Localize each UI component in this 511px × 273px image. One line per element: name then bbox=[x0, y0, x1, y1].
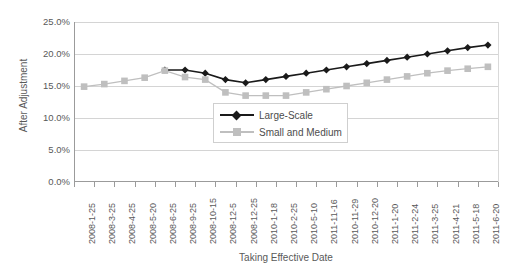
x-tick bbox=[377, 182, 378, 187]
x-tick bbox=[437, 182, 438, 187]
data-point-marker bbox=[242, 92, 249, 99]
x-axis-tick-labels: 2008-1-252008-3-252008-4-252008-5-202008… bbox=[74, 188, 498, 248]
data-point-marker bbox=[323, 66, 330, 73]
x-tick-label: 2010-12-20 bbox=[371, 198, 380, 244]
x-tick-label: 2010-2-25 bbox=[290, 203, 299, 244]
x-tick bbox=[397, 182, 398, 187]
x-tick-label: 2011-2-24 bbox=[411, 204, 420, 244]
legend-label: Large-Scale bbox=[259, 110, 313, 121]
data-point-marker bbox=[464, 44, 471, 51]
y-tick-label: 20.0% bbox=[43, 49, 70, 59]
x-tick bbox=[296, 182, 297, 187]
data-point-marker bbox=[222, 89, 229, 96]
x-tick-label: 2011-1-20 bbox=[391, 204, 400, 244]
x-tick bbox=[458, 182, 459, 187]
data-point-marker bbox=[424, 70, 431, 77]
data-point-marker bbox=[424, 50, 431, 57]
legend-item-small-and-medium: Small and Medium bbox=[220, 124, 342, 140]
y-tick-label: 0.0% bbox=[48, 177, 70, 187]
data-point-marker bbox=[181, 66, 188, 73]
data-point-marker bbox=[363, 80, 370, 87]
x-tick-label: 2008-9-25 bbox=[189, 203, 198, 244]
data-point-marker bbox=[464, 65, 471, 72]
x-tick-label: 2011-4-21 bbox=[452, 204, 461, 244]
data-point-marker bbox=[283, 92, 290, 99]
x-tick-label: 2008-12-5 bbox=[229, 203, 238, 244]
x-tick-label: 2010-11-29 bbox=[351, 199, 360, 244]
data-point-marker bbox=[182, 74, 189, 81]
data-point-marker bbox=[343, 63, 350, 70]
chart-legend: Large-Scale Small and Medium bbox=[213, 103, 348, 143]
x-tick-label: 2011-3-25 bbox=[431, 204, 440, 244]
x-tick bbox=[316, 182, 317, 187]
data-point-marker bbox=[404, 54, 411, 61]
data-point-marker bbox=[444, 47, 451, 54]
x-tick-label: 2008-4-25 bbox=[128, 203, 137, 244]
y-tick-label: 10.0% bbox=[43, 113, 70, 123]
y-tick-label: 15.0% bbox=[43, 81, 70, 91]
x-tick-label: 2008-5-20 bbox=[149, 203, 158, 244]
x-tick-label: 2008-1-25 bbox=[88, 203, 97, 244]
x-tick-label: 2008-3-25 bbox=[108, 203, 117, 244]
data-point-marker bbox=[141, 74, 148, 81]
x-tick bbox=[256, 182, 257, 187]
data-point-marker bbox=[202, 76, 209, 83]
x-tick bbox=[336, 182, 337, 187]
chart-container: After Adjustment 25.0%20.0%15.0%10.0%5.0… bbox=[0, 0, 511, 273]
data-point-marker bbox=[222, 76, 229, 83]
x-tick bbox=[195, 182, 196, 187]
legend-item-large-scale: Large-Scale bbox=[220, 107, 313, 123]
x-tick-label: 2011-6-20 bbox=[492, 204, 501, 244]
x-tick bbox=[357, 182, 358, 187]
data-point-marker bbox=[444, 67, 451, 74]
x-tick bbox=[135, 182, 136, 187]
x-tick bbox=[478, 182, 479, 187]
data-point-marker bbox=[484, 41, 491, 48]
data-point-marker bbox=[404, 73, 411, 80]
x-tick-label: 2011-11-16 bbox=[330, 199, 339, 244]
data-point-marker bbox=[384, 76, 391, 83]
x-tick bbox=[276, 182, 277, 187]
x-tick-label: 2010-1-18 bbox=[270, 203, 279, 244]
y-axis-tick-labels: 25.0%20.0%15.0%10.0%5.0%0.0% bbox=[26, 0, 70, 273]
data-point-marker bbox=[101, 81, 108, 88]
x-tick bbox=[114, 182, 115, 187]
data-point-marker bbox=[343, 83, 350, 90]
legend-label: Small and Medium bbox=[259, 127, 342, 138]
y-tick-label: 5.0% bbox=[48, 145, 70, 155]
x-tick-label: 2008-12-25 bbox=[250, 198, 259, 244]
data-point-marker bbox=[81, 83, 88, 90]
data-point-marker bbox=[303, 70, 310, 77]
x-axis-title: Taking Effective Date bbox=[74, 252, 498, 263]
x-tick bbox=[215, 182, 216, 187]
data-point-marker bbox=[323, 86, 330, 93]
data-point-marker bbox=[303, 89, 310, 96]
x-tick bbox=[498, 182, 499, 187]
data-point-marker bbox=[485, 64, 492, 71]
chart-series-layer bbox=[74, 22, 498, 182]
x-tick-label: 2011-5-18 bbox=[472, 204, 481, 244]
x-tick bbox=[236, 182, 237, 187]
x-tick bbox=[417, 182, 418, 187]
data-point-marker bbox=[363, 60, 370, 67]
x-tick-label: 2008-10-15 bbox=[209, 198, 218, 244]
legend-marker-square-icon bbox=[220, 126, 254, 138]
x-tick bbox=[175, 182, 176, 187]
x-tick bbox=[155, 182, 156, 187]
x-tick bbox=[74, 182, 75, 187]
plot-frame-right bbox=[498, 22, 499, 182]
data-point-marker bbox=[263, 92, 270, 99]
data-point-marker bbox=[162, 67, 169, 74]
data-point-marker bbox=[262, 76, 269, 83]
data-point-marker bbox=[121, 78, 128, 85]
x-tick bbox=[94, 182, 95, 187]
x-tick-label: 2008-6-25 bbox=[169, 203, 178, 244]
legend-marker-diamond-icon bbox=[220, 109, 254, 121]
data-point-marker bbox=[282, 73, 289, 80]
data-point-marker bbox=[242, 79, 249, 86]
data-point-marker bbox=[202, 70, 209, 77]
series-line-large-scale bbox=[165, 45, 488, 83]
x-tick-label: 2010-5-10 bbox=[310, 203, 319, 244]
data-point-marker bbox=[383, 57, 390, 64]
y-tick-label: 25.0% bbox=[43, 17, 70, 27]
